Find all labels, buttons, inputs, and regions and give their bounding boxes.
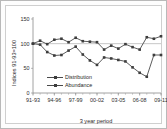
series-marker xyxy=(74,36,77,39)
x-tick-labels: 91-9394-9697-9900-0203-0506-0809-11 xyxy=(26,97,167,103)
series-marker xyxy=(96,64,99,67)
y-tick-label: 50 xyxy=(24,65,30,71)
series-marker xyxy=(117,47,120,50)
x-tick-label: 00-02 xyxy=(90,97,104,103)
legend-line-marker-icon xyxy=(47,75,63,81)
x-tick-label: 94-96 xyxy=(47,97,61,103)
series-marker xyxy=(53,54,56,57)
series-marker xyxy=(131,46,134,49)
series-line-abundance xyxy=(33,44,161,77)
y-tick-label: 100 xyxy=(21,41,30,47)
series-marker xyxy=(103,48,106,51)
series-marker xyxy=(53,38,56,41)
series-marker xyxy=(145,75,148,78)
series-marker xyxy=(39,43,42,46)
legend-item-distribution: Distribution xyxy=(47,74,92,81)
legend-label: Abundance xyxy=(65,82,92,89)
series-marker xyxy=(67,41,70,44)
series-marker xyxy=(138,48,141,51)
series-marker xyxy=(153,37,156,40)
series-marker xyxy=(46,43,49,46)
series-marker xyxy=(131,66,134,69)
x-tick-label: 97-99 xyxy=(69,97,83,103)
y-tick-label: 0 xyxy=(27,90,30,96)
series-marker xyxy=(124,60,127,63)
series-marker xyxy=(46,51,49,54)
series-marker xyxy=(32,42,35,45)
series-marker xyxy=(138,71,141,74)
x-tick-label: 91-93 xyxy=(26,97,40,103)
x-tick-label: 06-08 xyxy=(133,97,147,103)
series-marker xyxy=(96,41,99,44)
series-marker xyxy=(74,45,77,48)
series-marker xyxy=(89,59,92,62)
series-marker xyxy=(103,56,106,59)
series-marker xyxy=(81,53,84,56)
y-axis-title: Indices 91-93=100 xyxy=(11,40,17,86)
series-marker xyxy=(117,59,120,62)
series-marker xyxy=(110,57,113,60)
legend-line-marker-icon xyxy=(47,83,63,89)
series-marker xyxy=(89,40,92,43)
chart-legend: Distribution Abundance xyxy=(45,73,94,90)
series-marker xyxy=(60,37,63,40)
series-marker xyxy=(39,39,42,42)
legend-item-abundance: Abundance xyxy=(47,82,92,89)
series-marker xyxy=(81,40,84,43)
series-group xyxy=(32,35,163,78)
series-marker xyxy=(110,44,113,47)
series-marker xyxy=(145,36,148,39)
line-chart-plot: Indices 91-93=100 050100150 91-9394-9697… xyxy=(1,1,167,129)
y-tick-label: 150 xyxy=(21,16,30,22)
legend-label: Distribution xyxy=(65,74,92,81)
series-marker xyxy=(124,43,127,46)
series-marker xyxy=(160,35,163,38)
series-marker xyxy=(60,54,63,57)
series-marker xyxy=(160,54,163,57)
series-marker xyxy=(67,49,70,52)
chart-figure: Indices 91-93=100 050100150 91-9394-9697… xyxy=(0,0,167,129)
x-tick-label: 03-05 xyxy=(111,97,125,103)
series-marker xyxy=(153,54,156,57)
y-tick-labels: 050100150 xyxy=(21,16,30,96)
x-axis-title: 3 year period xyxy=(80,118,113,124)
x-tick-label: 09-11 xyxy=(154,97,167,103)
